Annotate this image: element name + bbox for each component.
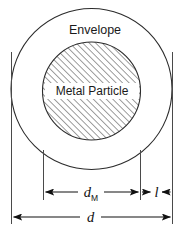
dimension-label-dm: dM bbox=[84, 184, 98, 203]
dimension-label-d: d bbox=[87, 209, 95, 225]
envelope-label: Envelope bbox=[69, 23, 121, 37]
metal-particle-label: Metal Particle bbox=[56, 84, 129, 98]
particle-envelope-diagram: Envelope Metal Particle dM l d bbox=[0, 0, 184, 231]
dimension-label-l: l bbox=[154, 184, 158, 200]
dimension-label-dm-subscript: M bbox=[91, 193, 98, 203]
